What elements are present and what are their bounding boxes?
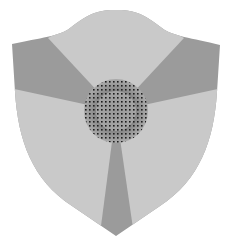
center-disc — [84, 79, 148, 143]
shield-emblem — [0, 0, 231, 249]
